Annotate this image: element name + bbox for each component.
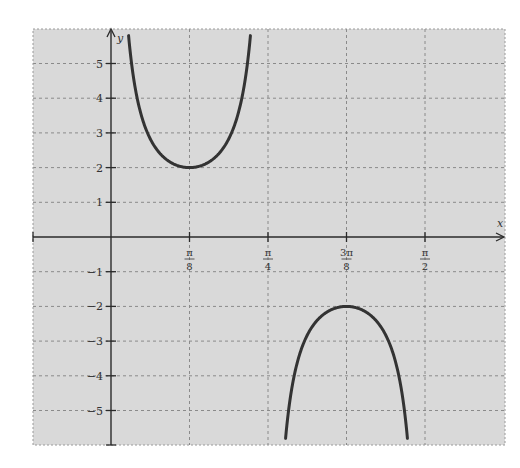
svg-text:π: π: [422, 247, 429, 258]
y-tick-label: −4: [87, 370, 103, 383]
x-axis-label: x: [497, 217, 504, 230]
y-tick-label: −1: [87, 266, 103, 279]
y-tick-label: −3: [87, 335, 103, 348]
y-tick-label: −2: [87, 300, 103, 313]
chart: 54321−1−2−3−4−5π8π43π8π2xy: [0, 0, 520, 468]
y-tick-label: 4: [96, 92, 103, 105]
svg-text:π: π: [186, 247, 193, 258]
y-tick-label: 3: [96, 127, 103, 140]
svg-text:2: 2: [422, 261, 428, 272]
svg-text:4: 4: [265, 261, 271, 272]
y-tick-label: 1: [96, 196, 103, 209]
y-tick-label: −5: [87, 405, 103, 418]
svg-text:8: 8: [343, 261, 349, 272]
svg-text:8: 8: [186, 261, 192, 272]
svg-text:π: π: [265, 247, 272, 258]
svg-text:3π: 3π: [340, 247, 353, 258]
y-axis-label: y: [116, 32, 124, 45]
y-tick-label: 5: [96, 58, 103, 71]
y-tick-label: 2: [96, 162, 103, 175]
